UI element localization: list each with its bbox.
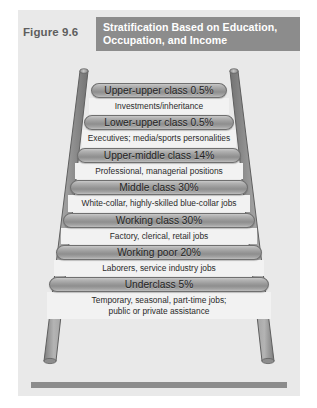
ladder-step: Working poor 20% Laborers, service indus… [18,245,300,276]
figure-title: Stratification Based on Education, Occup… [96,21,300,46]
figure-title-band: Stratification Based on Education, Occup… [96,17,300,51]
ladder-rung: Lower-upper class 0.5% [84,115,234,130]
ladder-step-description-line: White-collar, highly-skilled blue-collar… [82,198,237,208]
ladder-rung-stack: Upper-upper class 0.5% Investments/inher… [18,83,300,320]
ladder-rung: Middle class 30% [70,180,248,195]
ladder-rung-label: Underclass 5% [125,279,194,290]
ladder-step-description-line: Temporary, seasonal, part-time jobs; [47,295,271,305]
ladder-step-description: Executives; media/sports personalities [82,130,236,146]
ladder-step-description: Factory, clerical, retail jobs [61,228,257,244]
ladder-rung-label: Middle class 30% [119,182,198,193]
ladder-step: Middle class 30% White-collar, highly-sk… [18,180,300,211]
ladder-rung: Upper-upper class 0.5% [91,83,227,98]
ladder-step-description: White-collar, highly-skilled blue-collar… [68,195,250,211]
ladder-step: Underclass 5% Temporary, seasonal, part-… [18,277,300,319]
ladder-step-description: Temporary, seasonal, part-time jobs; pub… [47,292,271,319]
ladder-rung: Working class 30% [63,213,255,228]
ladder-step-description-line: Factory, clerical, retail jobs [110,231,209,241]
ladder-rung: Underclass 5% [49,277,269,292]
ladder-rung: Upper-middle class 14% [77,148,241,163]
ladder-step-description-line: Laborers, service industry jobs [102,263,216,273]
ladder-step-description-line: Investments/inheritance [115,101,203,111]
figure-panel: Figure 9.6 Stratification Based on Educa… [18,10,300,396]
ladder-rung-label: Upper-upper class 0.5% [104,85,213,96]
figure-bottom-rule [31,382,287,388]
ladder-step-description: Professional, managerial positions [75,163,243,179]
figure-number-label: Figure 9.6 [23,26,93,38]
ladder-step-description-line: Professional, managerial positions [95,166,223,176]
ladder-step-description-line: Executives; media/sports personalities [88,133,230,143]
ladder-step: Working class 30% Factory, clerical, ret… [18,213,300,244]
ladder-step-description: Laborers, service industry jobs [54,260,264,276]
figure-header: Figure 9.6 Stratification Based on Educa… [18,17,300,51]
ladder-step-description-line: public or private assistance [47,306,271,316]
ladder-rung: Working poor 20% [56,245,262,260]
ladder-rung-label: Lower-upper class 0.5% [104,117,213,128]
ladder-step: Upper-upper class 0.5% Investments/inher… [18,83,300,114]
ladder-step: Lower-upper class 0.5% Executives; media… [18,115,300,146]
ladder-step: Upper-middle class 14% Professional, man… [18,148,300,179]
ladder-step-description: Investments/inheritance [89,98,229,114]
ladder-rung-label: Upper-middle class 14% [104,150,214,161]
ladder-rung-label: Working class 30% [116,215,202,226]
ladder-diagram: Upper-upper class 0.5% Investments/inher… [18,55,300,375]
ladder-rung-label: Working poor 20% [117,247,201,258]
